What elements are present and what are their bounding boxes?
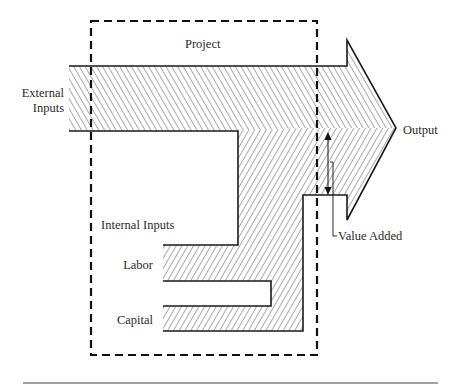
external-inputs-label-line1: External xyxy=(22,86,65,100)
external-inputs-label-line2: Inputs xyxy=(33,101,64,115)
output-label: Output xyxy=(403,123,438,137)
capital-labor-gap-outline xyxy=(163,281,271,306)
internal-inputs-label: Internal Inputs xyxy=(101,218,174,232)
value-added-diagram: Project External Inputs Internal Inputs … xyxy=(0,0,461,387)
value-added-label: Value Added xyxy=(338,229,403,243)
capital-label: Capital xyxy=(117,313,154,327)
project-label: Project xyxy=(185,37,221,51)
labor-label: Labor xyxy=(123,258,154,272)
